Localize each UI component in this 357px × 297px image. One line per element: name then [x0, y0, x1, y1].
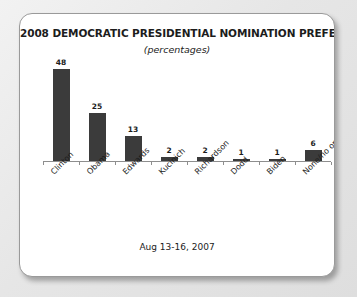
- bar-value-label: 13: [118, 125, 148, 134]
- bar-value-label: 25: [82, 102, 112, 111]
- bar-value-label: 1: [262, 148, 292, 157]
- bar-value-label: 48: [46, 58, 76, 67]
- category-label-biden: Biden: [265, 154, 287, 176]
- plot-area: 48Clinton25Obama13Edwards2Kucinich2Richa…: [20, 14, 335, 277]
- bar-value-label: 1: [226, 148, 256, 157]
- axis-tick: [331, 162, 332, 165]
- axis-tick: [259, 162, 260, 165]
- axis-tick: [295, 162, 296, 165]
- chart-card: 2008 DEMOCRATIC PRESIDENTIAL NOMINATION …: [19, 13, 335, 277]
- axis-tick: [187, 162, 188, 165]
- axis-tick: [79, 162, 80, 165]
- axis-tick: [43, 162, 44, 165]
- axis-tick: [151, 162, 152, 165]
- axis-tick: [115, 162, 116, 165]
- bar-clinton[interactable]: [53, 69, 70, 161]
- axis-tick: [223, 162, 224, 165]
- chart-footer-date: Aug 13-16, 2007: [20, 242, 334, 252]
